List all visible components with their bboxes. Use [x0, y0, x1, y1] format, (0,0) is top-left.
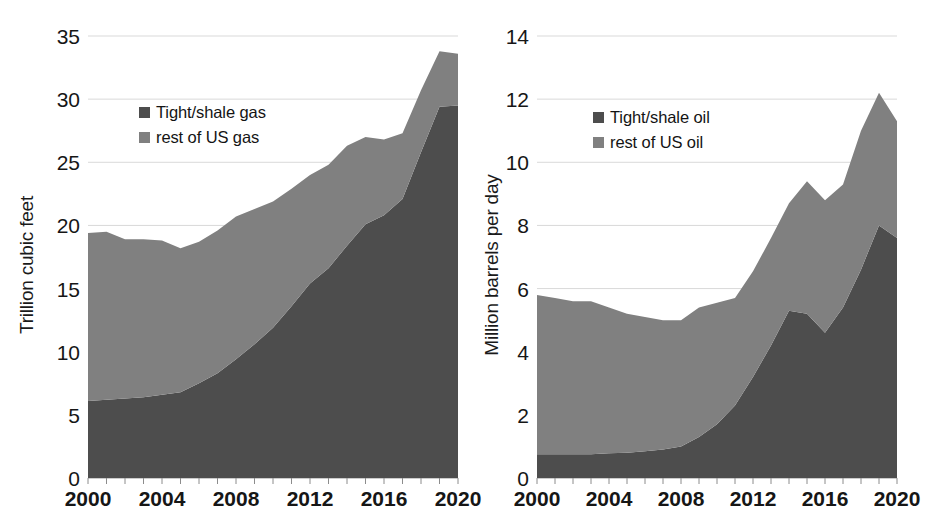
x-tick-label: 2000 [65, 488, 112, 509]
plot-area-gas [0, 0, 465, 530]
y-tick-label: 5 [68, 404, 80, 425]
y-tick-label: 12 [506, 89, 529, 110]
x-tick-label: 2008 [213, 488, 260, 509]
chart-svg-trillion [0, 0, 465, 530]
legend-item[interactable]: Tight/shale oil [593, 106, 710, 128]
legend-swatch-rest-of-us-oil [593, 137, 604, 148]
y-tick-label: 2 [517, 404, 529, 425]
legend-oil: Tight/shale oilrest of US oil [593, 106, 710, 156]
x-tick-label: 2004 [139, 488, 186, 509]
x-tick-label: 2020 [874, 488, 921, 509]
plot-area-oil [465, 0, 930, 530]
y-tick-label: 35 [57, 26, 80, 47]
y-tick-label: 0 [68, 468, 80, 489]
legend-item[interactable]: rest of US gas [139, 126, 266, 148]
legend-swatch-tight-shale-oil [593, 112, 604, 123]
x-tick-label: 2012 [287, 488, 334, 509]
y-tick-label: 10 [506, 152, 529, 173]
x-tick-label: 2000 [514, 488, 561, 509]
legend-item-label: rest of US gas [156, 128, 259, 147]
y-tick-label: 4 [517, 341, 529, 362]
x-tick-label: 2012 [730, 488, 777, 509]
legend-swatch-tight-shale-gas [139, 107, 150, 118]
y-tick-label: 14 [506, 26, 529, 47]
legend-item-label: rest of US oil [610, 133, 703, 152]
legend-swatch-rest-of-us-gas [139, 132, 150, 143]
x-tick-label: 2004 [586, 488, 633, 509]
chart-svg-million [465, 0, 930, 530]
x-tick-label: 2016 [802, 488, 849, 509]
x-tick-label: 2016 [361, 488, 408, 509]
x-tick-label: 2008 [658, 488, 705, 509]
x-axis-tick-marks [88, 478, 458, 484]
legend-item-label: Tight/shale oil [610, 108, 710, 127]
legend-item[interactable]: rest of US oil [593, 131, 710, 153]
figure-root: Trillion cubic feet 05101520253035 20002… [0, 0, 930, 530]
y-tick-label: 20 [57, 215, 80, 236]
y-tick-label: 0 [517, 468, 529, 489]
y-tick-label: 8 [517, 215, 529, 236]
y-tick-label: 6 [517, 278, 529, 299]
y-tick-label: 15 [57, 278, 80, 299]
y-tick-label: 25 [57, 152, 80, 173]
x-axis-tick-marks [537, 478, 897, 484]
y-tick-label: 30 [57, 89, 80, 110]
chart-panel-gas: Trillion cubic feet 05101520253035 20002… [0, 0, 465, 530]
legend-gas: Tight/shale gasrest of US gas [139, 101, 266, 151]
chart-panel-oil: Million barrels per day 02468101214 2000… [465, 0, 930, 530]
legend-item-label: Tight/shale gas [156, 103, 266, 122]
legend-item[interactable]: Tight/shale gas [139, 101, 266, 123]
y-tick-label: 10 [57, 341, 80, 362]
